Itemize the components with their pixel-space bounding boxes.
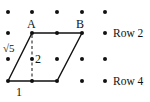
grid-dot <box>80 79 84 83</box>
grid-dot <box>30 10 34 14</box>
grid-dot <box>103 31 107 35</box>
vertex-a-label: A <box>27 17 36 31</box>
grid-dot <box>6 10 10 14</box>
grid-dots <box>6 10 107 83</box>
row-4-label: Row 4 <box>113 75 144 87</box>
grid-dot <box>55 10 59 14</box>
vertex-b-label: B <box>76 17 84 31</box>
grid-dot <box>80 57 84 61</box>
grid-dot <box>103 10 107 14</box>
grid-dot <box>80 10 84 14</box>
grid-dot <box>55 57 59 61</box>
side-length-label: √5 <box>3 42 15 54</box>
height-label: 2 <box>35 52 41 66</box>
base-length-label: 1 <box>16 85 22 99</box>
row-2-label: Row 2 <box>113 27 144 39</box>
grid-dot <box>103 79 107 83</box>
parallelogram-shape <box>8 33 82 81</box>
grid-dot <box>103 57 107 61</box>
grid-dot <box>6 31 10 35</box>
grid-dot <box>6 57 10 61</box>
dot-grid-diagram: A B √5 2 1 Row 2 Row 4 <box>0 0 150 102</box>
